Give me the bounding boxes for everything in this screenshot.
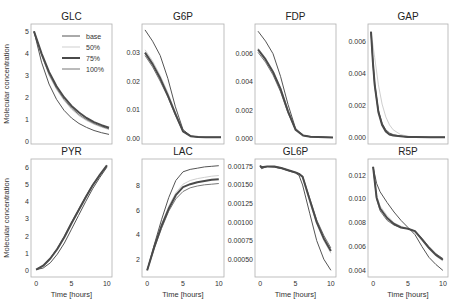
xlabel: Time [hours]	[387, 290, 428, 299]
ytick-label: 2	[25, 94, 29, 101]
xtick-label: 0	[371, 280, 375, 287]
ytick-label: 0.00075	[228, 237, 253, 244]
ytick-label: 0	[25, 267, 29, 274]
xtick-label: 10	[327, 280, 335, 287]
ytick-label: 0.01	[126, 106, 140, 113]
ytick-label: 0.00	[126, 135, 140, 142]
ytick-label: 0.004	[348, 267, 366, 274]
panel-pyr: PYR01234560510Time [hours]	[25, 146, 112, 299]
xtick-label: 10	[439, 280, 447, 287]
legend-label: 75%	[86, 55, 100, 62]
ytick-label: 0.002	[348, 102, 366, 109]
xtick-label: 5	[294, 280, 298, 287]
axes-frame	[142, 24, 224, 144]
ytick-label: 0.00125	[228, 200, 253, 207]
ytick-label: 8	[136, 182, 140, 189]
ytick-label: 6	[25, 164, 29, 171]
xtick-label: 10	[103, 280, 111, 287]
ytick-label: 0.006	[348, 38, 366, 45]
ytick-label: 0.00175	[228, 163, 253, 170]
ytick-label: 0.02	[126, 78, 140, 85]
panel-fdp: FDP0.0000.0020.0040.006	[235, 11, 336, 144]
axes-frame	[368, 24, 448, 144]
panel-g6p: G6P0.000.010.020.03	[126, 11, 224, 144]
ytick-label: 0.002	[235, 107, 253, 114]
ytick-label: 0.000	[235, 135, 253, 142]
panel-r5p: R5P0.0040.0060.0080.0100.0120510Time [ho…	[348, 146, 448, 299]
ylabel-top: Molecular concentration	[2, 44, 11, 124]
panel-title: PYR	[61, 146, 82, 157]
ytick-label: 5	[25, 181, 29, 188]
ytick-label: 1	[25, 116, 29, 123]
ytick-label: 0.010	[348, 195, 366, 202]
ytick-label: 0.00100	[228, 219, 253, 226]
panel-glc: GLC012345	[25, 11, 112, 145]
xtick-label: 5	[406, 280, 410, 287]
ytick-label: 5	[25, 28, 29, 35]
ytick-label: 0.03	[126, 49, 140, 56]
ytick-label: 0.000	[348, 134, 366, 141]
legend-label: base	[86, 33, 101, 40]
ytick-label: 0	[25, 138, 29, 145]
figure-grid: GLC012345G6P0.000.010.020.03FDP0.0000.00…	[0, 0, 467, 306]
panel-title: FDP	[286, 11, 306, 22]
ytick-label: 0.006	[235, 50, 253, 57]
xlabel: Time [hours]	[162, 290, 203, 299]
ytick-label: 2	[136, 256, 140, 263]
ytick-label: 1	[25, 250, 29, 257]
xtick-label: 5	[181, 280, 185, 287]
panel-title: GL6P	[283, 146, 309, 157]
ytick-label: 4	[25, 50, 29, 57]
axes-frame	[255, 24, 336, 144]
ytick-label: 6	[136, 207, 140, 214]
xtick-label: 10	[215, 280, 223, 287]
panel-title: G6P	[173, 11, 193, 22]
xtick-label: 0	[258, 280, 262, 287]
ytick-label: 0.00050	[228, 256, 253, 263]
ytick-label: 0.012	[348, 172, 366, 179]
ytick-label: 0.00150	[228, 181, 253, 188]
ytick-label: 0.004	[235, 78, 253, 85]
panel-title: LAC	[173, 146, 192, 157]
xlabel: Time [hours]	[51, 290, 92, 299]
legend-label: 100%	[86, 66, 104, 73]
panel-title: R5P	[398, 146, 418, 157]
xtick-label: 0	[145, 280, 149, 287]
panel-lac: LAC24680510Time [hours]	[136, 146, 224, 299]
xtick-label: 0	[34, 280, 38, 287]
ytick-label: 0.008	[348, 219, 366, 226]
ytick-label: 3	[25, 72, 29, 79]
ytick-label: 4	[136, 231, 140, 238]
ytick-label: 0.006	[348, 243, 366, 250]
ytick-label: 2	[25, 233, 29, 240]
ytick-label: 3	[25, 215, 29, 222]
ytick-label: 0.004	[348, 70, 366, 77]
xtick-label: 5	[70, 280, 74, 287]
panel-title: GLC	[61, 11, 82, 22]
panel-gl6p: GL6P0.000500.000750.001000.001250.001500…	[228, 146, 336, 299]
panel-gap: GAP0.0000.0020.0040.006	[348, 11, 448, 144]
panel-title: GAP	[397, 11, 418, 22]
xlabel: Time [hours]	[275, 290, 316, 299]
axes-frame	[368, 159, 448, 277]
ytick-label: 4	[25, 198, 29, 205]
legend-label: 50%	[86, 44, 100, 51]
ylabel-bottom: Molecular concentration	[2, 178, 11, 258]
